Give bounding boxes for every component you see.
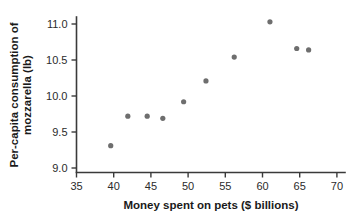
x-tick-label: 45 [145,180,157,192]
data-point [145,114,150,119]
y-tick-label: 11.0 [47,18,68,30]
y-axis: 9.09.510.010.511.0 [46,17,76,174]
x-axis: 3540455055606570 [70,173,345,193]
data-points [108,19,311,148]
data-point [203,78,208,83]
y-axis-title-line1: Per-capita consumption of [8,22,20,167]
x-axis-title: Money spent on pets ($ billions) [123,199,298,211]
x-tick-label: 55 [219,180,231,192]
data-point [294,46,299,51]
data-point [267,19,272,24]
x-tick-label: 35 [70,180,82,192]
scatter-plot-figure: 9.09.510.010.511.0 3540455055606570 Mone… [0,0,355,217]
x-tick-label: 50 [182,180,194,192]
data-point [160,116,165,121]
x-tick-label: 40 [108,180,120,192]
x-axis-tick-labels: 3540455055606570 [70,180,343,192]
x-tick-label: 70 [331,180,343,192]
y-tick-label: 9.5 [52,126,67,138]
data-point [181,99,186,104]
data-point [125,114,130,119]
data-point [232,55,237,60]
y-axis-title-line2: mozzarella (lb) [21,55,33,135]
x-tick-label: 65 [294,180,306,192]
data-point [108,143,113,148]
data-point [306,47,311,52]
y-axis-tick-labels: 9.09.510.010.511.0 [46,18,67,174]
y-tick-label: 10.0 [46,90,67,102]
x-tick-label: 60 [256,180,268,192]
chart-canvas: 9.09.510.010.511.0 3540455055606570 Mone… [0,0,355,217]
y-tick-label: 10.5 [46,54,67,66]
y-tick-label: 9.0 [52,162,67,174]
